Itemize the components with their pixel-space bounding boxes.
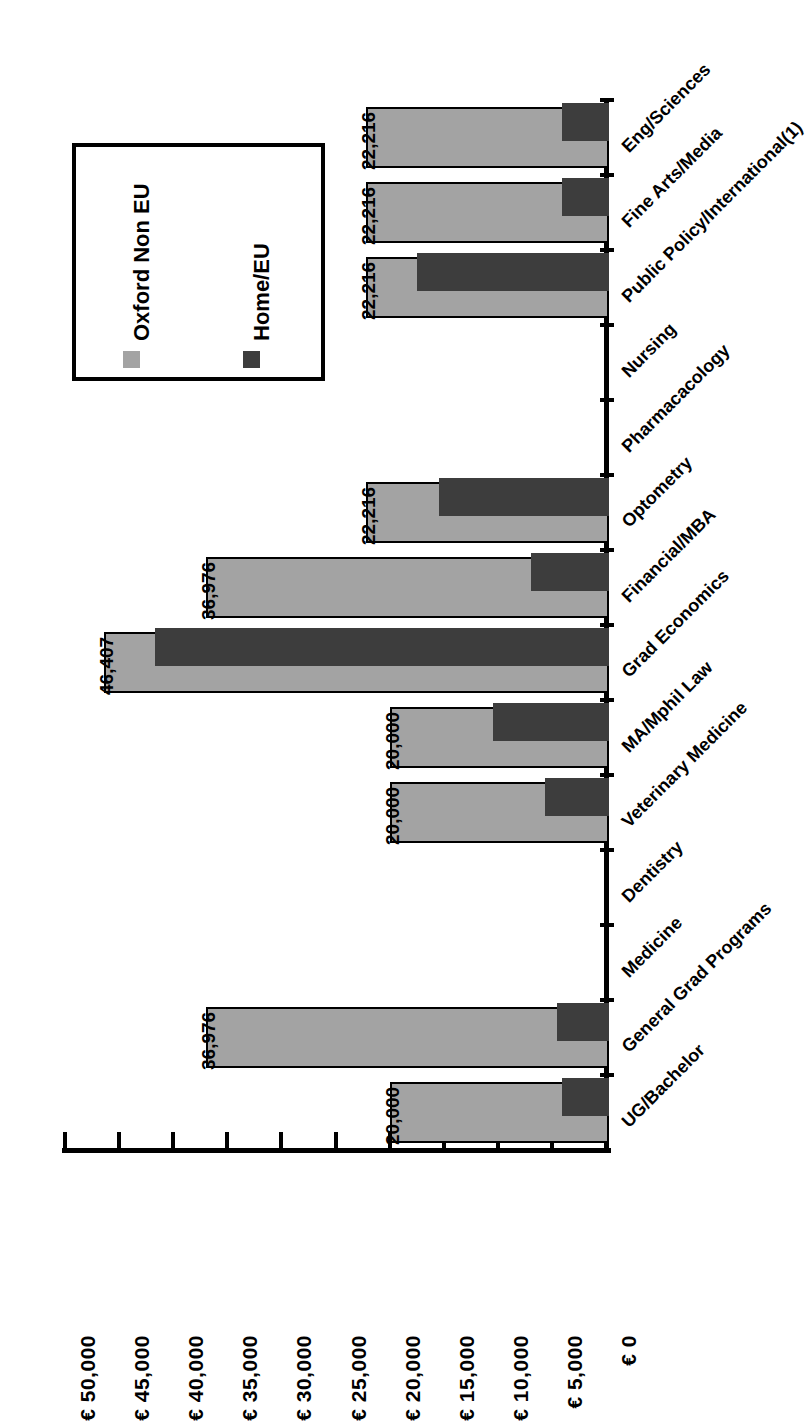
legend-label: Home/EU: [249, 243, 275, 341]
value-axis-tick: [117, 1132, 121, 1151]
category-axis-tick: [600, 623, 614, 627]
value-axis-tick: [225, 1132, 229, 1151]
value-axis-tick-label: € 35,000: [238, 1335, 262, 1425]
value-axis-tick-label: € 50,000: [76, 1335, 100, 1425]
value-axis-tick-label: € 30,000: [292, 1335, 316, 1425]
value-axis-tick-label: € 20,000: [401, 1335, 425, 1425]
category-label: Optometry: [618, 453, 697, 532]
bar-oxford-non-eu: [206, 1007, 609, 1069]
bar-home-eu: [562, 103, 609, 141]
bar-value-label: 36,976: [198, 562, 220, 620]
value-axis-tick: [279, 1132, 283, 1151]
bar-home-eu: [562, 178, 609, 216]
category-axis-tick: [600, 398, 614, 402]
category-label: General Grad Programs: [618, 898, 776, 1056]
bar-home-eu: [417, 253, 609, 291]
bar-value-label: 20,000: [382, 712, 404, 770]
bar-home-eu: [439, 478, 609, 516]
legend-swatch: [243, 351, 260, 368]
category-axis-tick: [600, 923, 614, 927]
value-axis-tick-label: € 0: [617, 1335, 641, 1425]
value-axis-tick-label: € 10,000: [509, 1335, 533, 1425]
bar-value-label: 22,216: [358, 262, 380, 320]
bar-home-eu: [531, 553, 609, 591]
value-axis-tick-label: € 25,000: [347, 1335, 371, 1425]
bar-value-label: 46,407: [96, 637, 118, 695]
category-axis-tick: [600, 698, 614, 702]
bar-value-label: 20,000: [382, 1087, 404, 1145]
category-label: Nursing: [618, 319, 681, 382]
category-axis-tick: [600, 773, 614, 777]
category-label: Medicine: [618, 913, 687, 982]
category-label: Dentistry: [618, 837, 688, 907]
value-axis-tick: [63, 1132, 67, 1151]
value-axis-tick-label: € 5,000: [563, 1335, 587, 1425]
bar-home-eu: [155, 628, 609, 666]
legend-swatch: [123, 351, 140, 368]
bar-value-label: 22,216: [358, 187, 380, 245]
category-axis-tick: [600, 1073, 614, 1077]
category-axis-tick: [600, 998, 614, 1002]
bar-home-eu: [557, 1003, 609, 1041]
value-axis-tick: [171, 1132, 175, 1151]
category-axis-tick: [600, 473, 614, 477]
bar-home-eu: [493, 703, 609, 741]
category-axis-tick: [600, 173, 614, 177]
value-axis-tick: [334, 1132, 338, 1151]
legend-label: Oxford Non EU: [129, 183, 155, 341]
value-axis-tick-label: € 45,000: [130, 1335, 154, 1425]
bar-value-label: 22,216: [358, 487, 380, 545]
value-axis-tick-label: € 15,000: [455, 1335, 479, 1425]
chart-legend: Oxford Non EUHome/EU: [72, 143, 325, 381]
bar-value-label: 22,216: [358, 112, 380, 170]
bar-home-eu: [545, 778, 609, 816]
bar-home-eu: [562, 1078, 609, 1116]
category-axis-tick: [600, 248, 614, 252]
category-axis-tick: [600, 848, 614, 852]
value-axis-tick-label: € 40,000: [184, 1335, 208, 1425]
bar-value-label: 20,000: [382, 787, 404, 845]
category-axis-tick: [600, 98, 614, 102]
bar-value-label: 36,976: [198, 1012, 220, 1070]
category-axis-tick: [600, 548, 614, 552]
category-label: Veterinary Medicine: [618, 698, 752, 832]
category-axis-tick: [600, 323, 614, 327]
